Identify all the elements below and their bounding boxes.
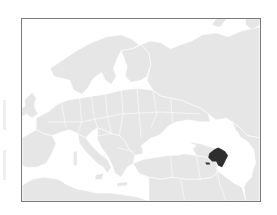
locator-map: Azerbaijan [21,18,261,202]
left-edge-mark [3,150,6,180]
left-edge-mark [3,100,6,130]
sardinia [74,152,77,166]
map-svg [22,19,260,201]
